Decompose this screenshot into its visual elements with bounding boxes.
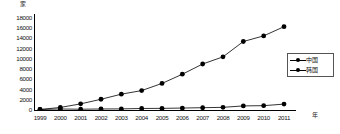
- chart-legend: 中国 韩国: [287, 53, 334, 77]
- x-axis-tick-label: 2010: [253, 115, 275, 121]
- data-point: [180, 106, 185, 110]
- data-point: [99, 107, 104, 110]
- data-point: [38, 107, 43, 110]
- x-axis-tick-label: 2008: [212, 115, 234, 121]
- legend-marker-icon: [290, 66, 306, 74]
- x-axis-tick-label: 2005: [151, 115, 173, 121]
- data-point: [78, 101, 83, 106]
- x-axis-tick-label: 2011: [273, 115, 295, 121]
- legend-label-0: 中国: [306, 57, 317, 63]
- data-point: [261, 103, 266, 108]
- data-point: [160, 81, 165, 86]
- data-point: [241, 104, 246, 109]
- x-axis-tick-label: 1999: [29, 115, 51, 121]
- x-axis-tick-label: 2007: [192, 115, 214, 121]
- x-axis-tick-label: 2002: [90, 115, 112, 121]
- x-axis-tick-label: 2004: [131, 115, 153, 121]
- data-point: [78, 107, 83, 110]
- x-axis-tick-label: 2009: [232, 115, 254, 121]
- x-axis-line: [34, 110, 296, 111]
- legend-item-1: 韩国: [290, 65, 317, 75]
- data-point: [221, 105, 226, 110]
- y-axis-tick-label: 16000: [2, 25, 32, 31]
- y-axis-tick-label: 14000: [2, 35, 32, 41]
- series-line: [40, 27, 284, 110]
- legend-label-1: 韩国: [306, 67, 317, 73]
- data-point: [200, 105, 205, 110]
- series-svg: [34, 14, 296, 110]
- x-axis-tick-label: 2000: [49, 115, 71, 121]
- data-point: [282, 24, 287, 29]
- data-point: [261, 33, 266, 38]
- series-2: [38, 102, 287, 110]
- plot-area: [34, 14, 296, 110]
- data-point: [180, 72, 185, 77]
- legend-item-0: 中国: [290, 55, 317, 65]
- y-axis-tick-label: 0: [2, 107, 32, 113]
- data-point: [221, 54, 226, 59]
- y-axis-tick-label: 2000: [2, 97, 32, 103]
- x-axis-unit-label: 年: [312, 112, 318, 118]
- series-1: [38, 24, 287, 110]
- data-point: [282, 102, 287, 107]
- y-axis-tick-label: 6000: [2, 76, 32, 82]
- line-chart: 家 年 020004000600080001000012000140001600…: [0, 0, 340, 134]
- x-axis-tick-label: 2003: [110, 115, 132, 121]
- x-axis-tick-label: 2006: [171, 115, 193, 121]
- x-axis-tick-label: 2001: [70, 115, 92, 121]
- y-axis-tick-label: 18000: [2, 15, 32, 21]
- y-axis-tick-label: 10000: [2, 56, 32, 62]
- data-point: [160, 106, 165, 110]
- data-point: [119, 106, 124, 110]
- data-point: [139, 88, 144, 93]
- data-point: [99, 97, 104, 102]
- y-axis-tick-labels: 0200040006000800010000120001400016000180…: [0, 0, 32, 134]
- data-point: [241, 39, 246, 44]
- y-axis-tick-label: 12000: [2, 46, 32, 52]
- y-axis-tick-label: 4000: [2, 87, 32, 93]
- data-point: [139, 106, 144, 110]
- data-point: [119, 92, 124, 97]
- data-point: [200, 62, 205, 67]
- y-axis-tick-label: 8000: [2, 66, 32, 72]
- legend-marker-icon: [290, 56, 306, 64]
